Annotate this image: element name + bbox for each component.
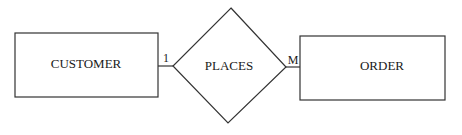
relationship-places-label: PLACES xyxy=(205,58,253,73)
entity-customer-label: CUSTOMER xyxy=(51,56,122,71)
relationship-places[interactable]: PLACES xyxy=(173,8,286,123)
entity-order-label: ORDER xyxy=(360,58,404,73)
entity-customer[interactable]: CUSTOMER xyxy=(15,33,158,97)
cardinality-order: M xyxy=(288,53,299,67)
entity-order[interactable]: ORDER xyxy=(300,36,445,100)
er-diagram: CUSTOMER 1 PLACES M ORDER xyxy=(0,0,462,135)
cardinality-customer: 1 xyxy=(163,51,169,65)
